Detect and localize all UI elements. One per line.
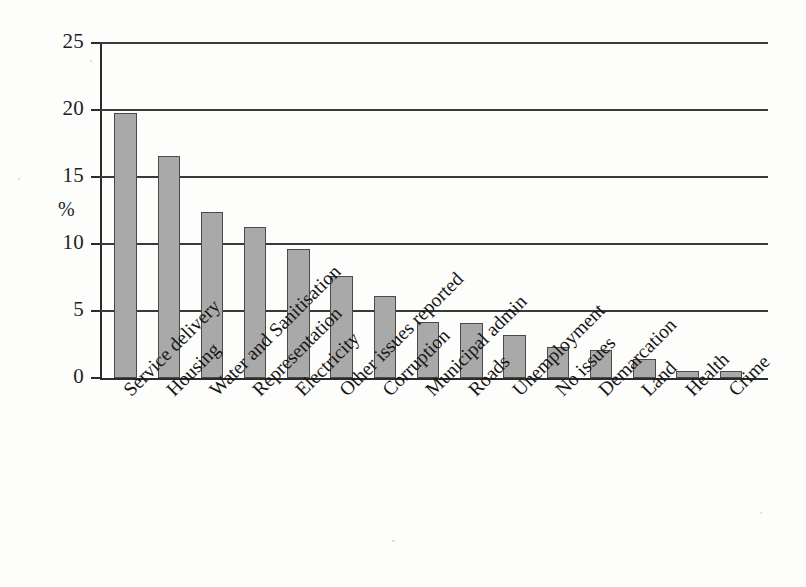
y-tick-mark-25 xyxy=(91,42,100,44)
y-axis-title: % xyxy=(58,198,75,221)
y-tick-label-5: 5 xyxy=(38,299,84,320)
y-axis-line xyxy=(100,43,102,380)
y-tick-mark-5 xyxy=(91,310,100,312)
scan-speck xyxy=(392,540,395,542)
y-tick-label-20: 20 xyxy=(38,98,84,119)
y-tick-label-25: 25 xyxy=(38,31,84,52)
gridline-15 xyxy=(100,176,768,178)
bar-chart-figure: 0510152025 % Service deliveryHousingWate… xyxy=(0,0,806,587)
y-tick-mark-20 xyxy=(91,109,100,111)
y-tick-label-15: 15 xyxy=(38,165,84,186)
scan-speck xyxy=(760,512,762,514)
x-axis-category-labels-group: Service deliveryHousingWater and Sanitis… xyxy=(100,382,806,582)
scan-speck xyxy=(90,60,92,62)
y-tick-mark-15 xyxy=(91,176,100,178)
gridline-20 xyxy=(100,109,768,111)
y-tick-label-10: 10 xyxy=(38,232,84,253)
y-tick-mark-0 xyxy=(91,377,100,379)
scan-speck xyxy=(18,178,20,180)
bar xyxy=(114,113,136,378)
y-tick-mark-10 xyxy=(91,243,100,245)
y-tick-label-0: 0 xyxy=(38,366,84,387)
gridline-25 xyxy=(100,42,768,44)
